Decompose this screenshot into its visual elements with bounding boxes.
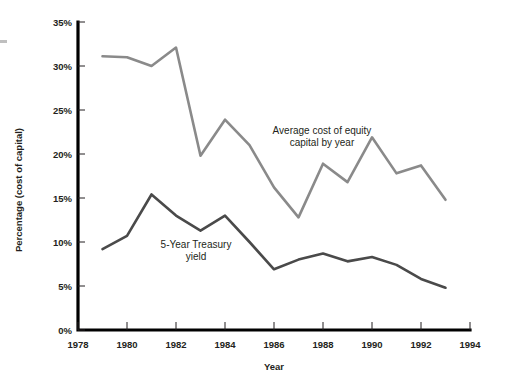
x-tick-label: 1988 [312,339,333,350]
x-tick-label: 1986 [263,339,284,350]
equity-cost-annotation-line2: capital by year [290,137,355,148]
x-tick-label: 1994 [459,339,481,350]
y-tick-label: 30% [53,61,73,72]
treasury-yield-annotation-line2: yield [186,251,207,262]
x-tick-label: 1980 [116,339,137,350]
y-tick-label: 5% [58,281,72,292]
y-tick-label: 15% [53,193,73,204]
y-axis-title: Percentage (cost of capital) [13,128,24,252]
equity-cost-annotation: Average cost of equity capital by year [273,125,372,148]
y-tick-label: 20% [53,149,73,160]
x-tick-label: 1978 [67,339,88,350]
y-tick-label: 0% [58,325,72,336]
x-tick-labels: 1978 1980 1982 1984 1986 1988 1990 1992 … [67,339,481,350]
x-tick-label: 1982 [165,339,186,350]
treasury-yield-annotation-line1: 5-Year Treasury [161,239,232,250]
x-tick-label: 1984 [214,339,236,350]
cost-of-capital-chart: 35% 30% 25% 20% 15% 10% 5% 0% 1978 1980 … [0,0,507,387]
chart-svg: 35% 30% 25% 20% 15% 10% 5% 0% 1978 1980 … [0,0,507,387]
y-tick-label: 35% [53,17,73,28]
y-tick-label: 25% [53,105,73,116]
y-tick-label: 10% [53,237,73,248]
treasury-yield-annotation: 5-Year Treasury yield [161,239,232,262]
y-tick-labels: 35% 30% 25% 20% 15% 10% 5% 0% [53,17,73,336]
equity-cost-annotation-line1: Average cost of equity [273,125,372,136]
x-tick-label: 1992 [410,339,431,350]
axis-lines [78,22,470,330]
corner-mark-decoration [0,40,7,43]
series-line-treasury-yield [103,194,446,287]
x-axis-title: Year [264,361,284,372]
x-tick-label: 1990 [361,339,382,350]
